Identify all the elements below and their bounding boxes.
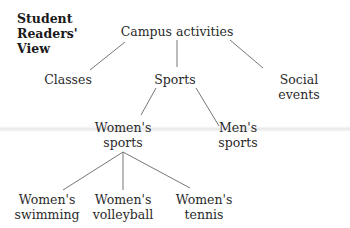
edge-root-social bbox=[230, 40, 263, 68]
edge-sports-mens bbox=[196, 88, 219, 126]
node-campus-activities: Campus activities bbox=[121, 24, 234, 39]
tree-diagram: Student Readers' View Campus activities … bbox=[0, 0, 350, 228]
diagram-title: Student Readers' View bbox=[17, 11, 78, 56]
node-sports: Sports bbox=[154, 72, 196, 87]
node-womens-sports: Women's sports bbox=[95, 120, 152, 150]
edge-root-classes bbox=[90, 42, 125, 70]
node-womens-tennis: Women's tennis bbox=[176, 192, 233, 222]
node-mens-sports: Men's sports bbox=[218, 120, 257, 150]
edge-womens-swimming bbox=[63, 152, 123, 190]
node-womens-volleyball: Women's volleyball bbox=[93, 192, 154, 222]
edge-womens-tennis bbox=[123, 152, 190, 188]
node-womens-swimming: Women's swimming bbox=[15, 192, 80, 222]
node-classes: Classes bbox=[44, 72, 92, 87]
node-social-events: Social events bbox=[274, 72, 325, 102]
edge-sports-womens bbox=[141, 88, 156, 115]
